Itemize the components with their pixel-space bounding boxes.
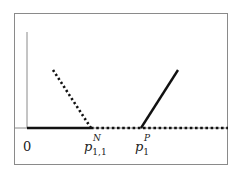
origin-label: 0	[23, 140, 31, 153]
p-n-label: p1,1N	[84, 140, 107, 153]
dotted-descending-line	[53, 70, 91, 128]
p-n-subscript: 1,1	[92, 147, 106, 157]
p-n-superscript: N	[93, 134, 101, 143]
p-p-superscript: P	[144, 134, 150, 143]
diagram-canvas	[0, 0, 237, 174]
solid-ascending-line	[141, 70, 178, 128]
p-p-subscript: 1	[143, 147, 149, 157]
origin-label-text: 0	[23, 139, 31, 154]
p-p-label: p1P	[135, 140, 149, 153]
